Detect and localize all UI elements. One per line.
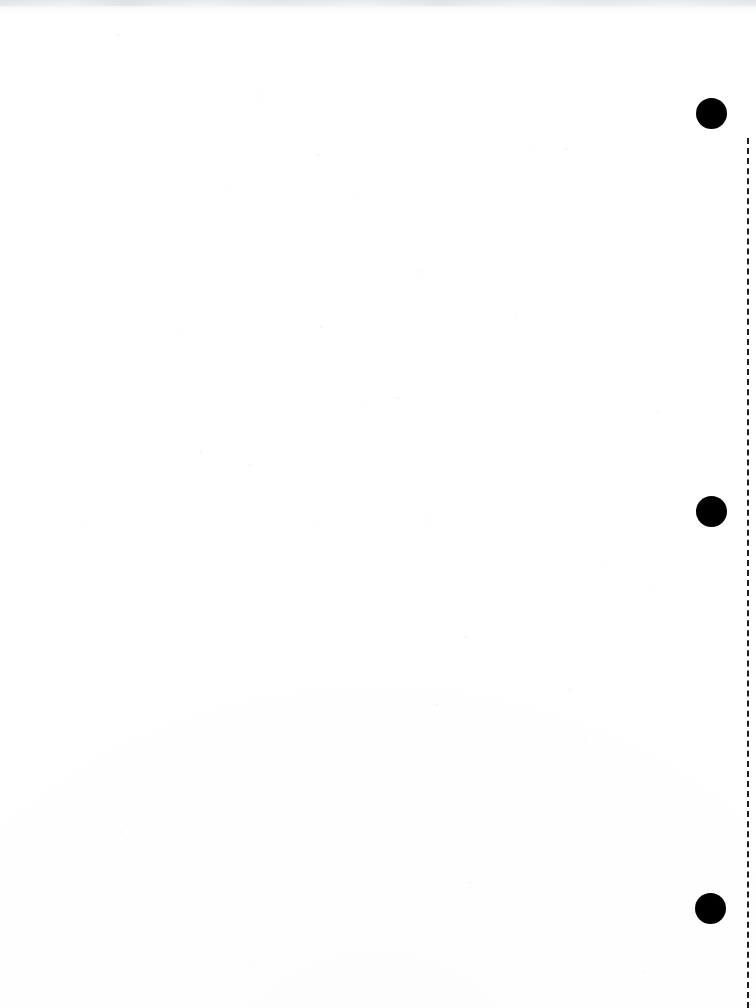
punch-hole-middle <box>696 496 727 527</box>
page-content-area <box>46 46 666 962</box>
dashed-binding-guide <box>747 138 749 1008</box>
punch-hole-bottom <box>695 893 726 924</box>
punch-hole-top <box>696 98 727 129</box>
top-scan-edge-shadow <box>0 0 756 16</box>
scanned-page <box>0 0 756 1008</box>
